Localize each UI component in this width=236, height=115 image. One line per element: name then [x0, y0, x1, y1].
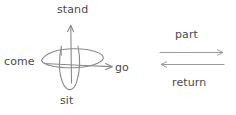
- label-return: return: [172, 77, 206, 88]
- arrow-right-part: [160, 50, 223, 55]
- vertical-arrow-up-stand: [68, 25, 74, 83]
- arrow-left-return: [161, 62, 224, 67]
- label-stand: stand: [57, 4, 88, 15]
- label-part: part: [175, 29, 198, 40]
- diagram-canvas: stand come go sit part return: [0, 0, 236, 115]
- label-come: come: [4, 56, 35, 67]
- label-sit: sit: [60, 95, 73, 106]
- diagram-vector-layer: [0, 0, 236, 115]
- label-go: go: [115, 62, 129, 73]
